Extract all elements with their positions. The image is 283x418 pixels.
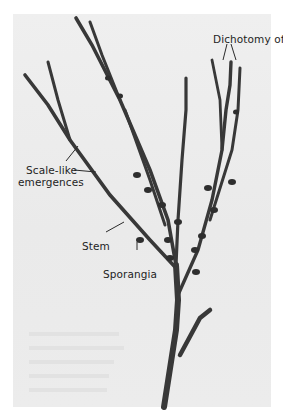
label-scale-like: Scale-like <box>26 164 77 176</box>
label-stem: Stem <box>82 240 110 252</box>
label-emergences: emergences <box>18 176 84 188</box>
label-dichotomy-of-stem: Dichotomy of stem <box>213 33 283 45</box>
label-sporangia: Sporangia <box>103 268 157 280</box>
plant-stem-illustration <box>0 0 283 418</box>
specimen-photo: Dichotomy of stem Scale-like emergences … <box>13 14 271 407</box>
